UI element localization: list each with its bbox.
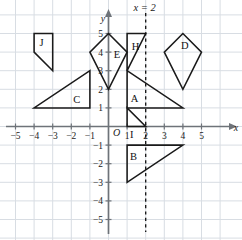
x-tick-label-7: 3 — [162, 131, 167, 141]
x-tick-label-2: −3 — [48, 131, 58, 141]
y-tick-label-6: −2 — [93, 159, 103, 169]
x-tick-label-5: 1 — [125, 131, 130, 141]
shape-label-b: B — [130, 151, 137, 162]
x-tick-label-6: 2 — [143, 131, 148, 141]
shape-label-a: A — [131, 93, 139, 104]
x-tick-label-1: −4 — [29, 131, 39, 141]
y-tick-label-7: −3 — [93, 178, 103, 188]
x-tick-label-3: −2 — [66, 131, 76, 141]
plot-background — [0, 0, 242, 240]
shape-label-d: D — [181, 40, 189, 51]
plot-canvas: x = 2xyO−5−4−3−2−11234554321−1−2−3−4−5JE… — [0, 0, 242, 240]
shape-label-i: I — [130, 129, 134, 140]
y-tick-label-3: 2 — [98, 85, 103, 95]
y-tick-label-8: −4 — [93, 196, 103, 206]
y-axis-variable-label: y — [100, 13, 106, 24]
y-tick-label-1: 4 — [98, 48, 103, 58]
x-axis-variable-label: x — [233, 122, 239, 133]
shape-label-e: E — [114, 49, 120, 60]
y-tick-label-0: 5 — [98, 29, 103, 39]
x-tick-label-9: 5 — [199, 131, 204, 141]
mirror-line-equation-label: x = 2 — [133, 2, 157, 13]
y-tick-label-9: −5 — [93, 215, 103, 225]
shape-label-j: J — [39, 37, 43, 48]
coordinate-plane-figure: x = 2xyO−5−4−3−2−11234554321−1−2−3−4−5JE… — [0, 0, 242, 240]
x-tick-label-4: −1 — [85, 131, 95, 141]
origin-label: O — [113, 127, 120, 138]
x-tick-label-8: 4 — [181, 131, 186, 141]
x-tick-label-0: −5 — [10, 131, 20, 141]
y-tick-label-4: 1 — [98, 103, 103, 113]
shape-label-h: H — [132, 41, 140, 52]
y-tick-label-2: 3 — [98, 66, 103, 76]
y-tick-label-5: −1 — [93, 141, 103, 151]
shape-label-c: C — [73, 94, 80, 105]
